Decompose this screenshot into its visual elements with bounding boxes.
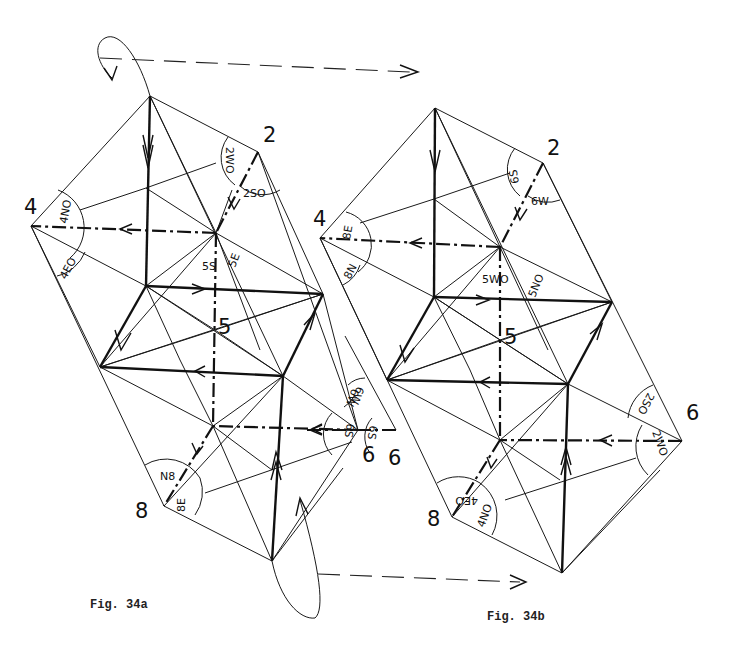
- figure-34a: 2 4 5 6 8 2WO 2SO 4NO 4EO 5S 5E 6W 6S N8…: [24, 96, 375, 612]
- fig34a-angle-8E: 8E: [175, 498, 188, 512]
- fig34b-vertex-8: 8: [427, 507, 440, 531]
- fig34b-angle-6W: 6W: [531, 195, 549, 208]
- figure-34b: 2 4 5 6 8 6 6S 6W 8E 8N 5WO 5NO 2SO 2WO …: [305, 108, 699, 624]
- fig34b-angle-8N: 8N: [341, 262, 360, 282]
- fig34b-angle-5NO: 5NO: [526, 272, 547, 299]
- fig34b-angle-5WO: 5WO: [482, 273, 509, 286]
- fig34a-angle-4NO: 4NO: [57, 198, 74, 224]
- fig34a-vertex-2: 2: [263, 123, 276, 147]
- fig34b-angle-8E: 8E: [340, 224, 355, 240]
- diagram-canvas: 2 4 5 6 8 2WO 2SO 4NO 4EO 5S 5E 6W 6S N8…: [0, 0, 733, 666]
- transition-top: [98, 37, 418, 96]
- transition-dashed-line-bottom: [318, 574, 520, 582]
- rotation-arrow-bottom: [272, 500, 320, 618]
- fig34a-angle-2WO: 2WO: [223, 147, 236, 174]
- fig34a-vertex-8: 8: [135, 499, 148, 523]
- rotation-arrow-top: [98, 37, 150, 96]
- fig34b-angle-6S: 6S: [507, 169, 522, 185]
- fig34b-caption: Fig. 34b: [487, 610, 545, 624]
- fig34b-vertex-4: 4: [313, 207, 326, 231]
- transition-dashed-line-top: [100, 58, 410, 72]
- fig34a-vertex-4: 4: [24, 195, 37, 219]
- fig34a-vertex-5: 5: [218, 315, 231, 339]
- fig34b-labels: 2 4 5 6 8 6 6S 6W 8E 8N 5WO 5NO 2SO 2WO …: [313, 136, 699, 531]
- fig34b-angle-2WO: 2WO: [649, 429, 670, 459]
- fig34b-angle-4EO: 4EO: [455, 494, 478, 507]
- fig34b-angle-6S-left: 6S: [365, 424, 380, 440]
- fig34b-vertex-6-left: 6: [388, 446, 401, 470]
- fig34a-angle-4EO: 4EO: [57, 255, 79, 281]
- fig34a-angle-N8: N8: [160, 470, 175, 483]
- fig34a-caption: Fig. 34a: [90, 598, 148, 612]
- fig34b-vertex-6: 6: [686, 401, 699, 425]
- fig34a-angle-5E: 5E: [226, 251, 243, 269]
- fig34b-vertex-5: 5: [504, 325, 517, 349]
- fig34a-vertex-6: 6: [362, 443, 375, 467]
- fig34b-angle-2SO: 2SO: [635, 391, 657, 417]
- rotation-arrowhead-top: [104, 66, 117, 80]
- fig34a-angle-2SO: 2SO: [243, 187, 266, 200]
- fig34b-vertex-2: 2: [547, 136, 560, 160]
- fig34a-thin-lines: [31, 96, 358, 561]
- fig34a-angle-5S: 5S: [202, 260, 216, 273]
